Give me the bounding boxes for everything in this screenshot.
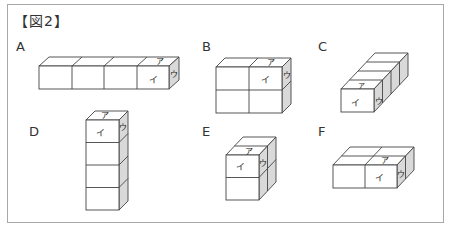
svg-text:ウ: ウ	[283, 71, 291, 80]
svg-text:イ: イ	[351, 98, 360, 108]
cube-diagrams: ア イ ウ ア イ ウ ア イ ウ	[0, 0, 453, 231]
svg-text:ウ: ウ	[397, 170, 405, 179]
shape-e: ア イ ウ	[226, 137, 276, 200]
svg-text:ア: ア	[358, 82, 365, 90]
shape-c: ア イ ウ	[341, 53, 408, 112]
shape-a: ア イ ウ	[39, 57, 179, 89]
svg-text:ア: ア	[156, 57, 164, 66]
svg-text:ウ: ウ	[119, 123, 127, 132]
svg-text:イ: イ	[96, 128, 105, 138]
svg-text:ア: ア	[245, 147, 253, 156]
svg-text:イ: イ	[236, 162, 245, 172]
svg-text:イ: イ	[149, 75, 158, 85]
svg-text:ア: ア	[381, 156, 389, 165]
svg-text:ア: ア	[267, 58, 275, 67]
shape-f: ア イ ウ	[333, 147, 414, 188]
svg-text:ウ: ウ	[375, 97, 383, 106]
svg-text:ア: ア	[101, 111, 109, 120]
svg-text:イ: イ	[375, 173, 384, 183]
shape-d: ア イ ウ	[86, 111, 128, 210]
svg-text:ウ: ウ	[259, 159, 267, 168]
svg-text:ウ: ウ	[170, 70, 178, 79]
shape-b: ア イ ウ	[216, 58, 291, 113]
svg-text:イ: イ	[261, 75, 270, 85]
